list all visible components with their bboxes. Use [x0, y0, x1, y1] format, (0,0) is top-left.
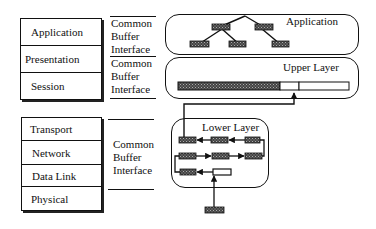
tree-node-icons	[190, 24, 289, 47]
diagram-graphics	[0, 0, 376, 229]
upper-layer-buffer	[178, 82, 349, 90]
lower-layer-buffers	[179, 137, 262, 213]
upward-connector	[184, 93, 294, 138]
